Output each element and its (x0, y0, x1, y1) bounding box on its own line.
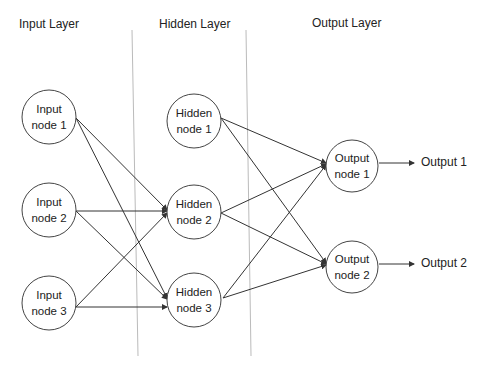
edge-i2-h3 (76, 211, 167, 299)
hidden-node-2-label: Hiddennode 2 (167, 196, 221, 228)
layer-divider-2 (246, 30, 251, 356)
output-node-1-label: Outputnode 1 (325, 150, 379, 182)
edge-i1-h2 (76, 118, 167, 210)
edge-h3-o1 (223, 165, 326, 298)
input-node-3-label: Inputnode 3 (22, 287, 76, 319)
output-2-label: Output 2 (421, 256, 467, 270)
edge-i3-h2 (76, 213, 167, 307)
edge-h3-o2 (223, 265, 326, 298)
hidden-node-1-label: Hiddennode 1 (167, 105, 221, 137)
hidden-layer-title: Hidden Layer (159, 17, 230, 31)
input-node-1-label: Inputnode 1 (22, 101, 76, 133)
input-layer-title: Input Layer (19, 17, 79, 31)
output-node-2-label: Outputnode 2 (325, 251, 379, 283)
output-1-label: Output 1 (421, 155, 467, 169)
input-node-2-label: Inputnode 2 (22, 194, 76, 226)
edge-h2-o2 (221, 213, 326, 264)
edge-i1-h3 (76, 118, 167, 298)
output-layer-title: Output Layer (312, 16, 381, 30)
edge-h2-o1 (221, 164, 326, 213)
hidden-node-3-label: Hiddennode 3 (167, 284, 221, 316)
edge-h1-o2 (221, 118, 326, 263)
